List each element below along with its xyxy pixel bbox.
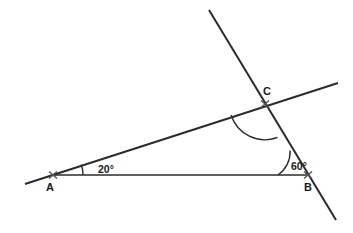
geometry-canvas: A B C 20° 60° — [0, 0, 353, 233]
angle-arc-at-b — [278, 151, 290, 176]
angle-label-at-b: 60° — [291, 160, 307, 172]
geometry-figure-container: A B C 20° 60° — [0, 0, 353, 233]
angle-label-at-a: 20° — [98, 163, 114, 175]
point-label-c: C — [263, 85, 271, 97]
point-label-b: B — [304, 181, 312, 193]
point-label-a: A — [46, 181, 54, 193]
line-through-c-and-b — [209, 10, 336, 220]
angle-arc-at-c — [231, 115, 277, 140]
